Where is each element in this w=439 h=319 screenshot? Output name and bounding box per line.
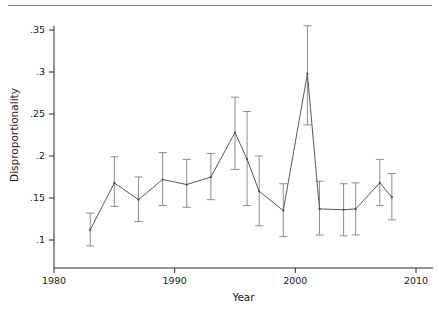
data-point-marker xyxy=(113,182,115,184)
data-point-marker xyxy=(162,178,164,180)
data-point-marker xyxy=(282,210,284,212)
x-tick-label: 1990 xyxy=(163,275,187,286)
data-point-marker xyxy=(89,229,91,231)
data-point-marker xyxy=(258,190,260,192)
data-point-marker xyxy=(234,131,236,133)
data-point-marker xyxy=(318,208,320,210)
y-axis-title: Disproportionality xyxy=(8,88,20,182)
data-point-marker xyxy=(210,176,212,178)
data-point-marker xyxy=(306,73,308,75)
chart-canvas: .1.15.2.25.3.351980199020002010Dispropor… xyxy=(0,0,439,319)
x-axis-title: Year xyxy=(231,291,255,303)
y-tick-label: .1 xyxy=(36,234,45,245)
data-point-marker xyxy=(246,158,248,160)
data-point-marker xyxy=(355,208,357,210)
data-point-marker xyxy=(137,199,139,201)
y-tick-label: .35 xyxy=(30,24,45,35)
chart-figure: .1.15.2.25.3.351980199020002010Dispropor… xyxy=(0,0,439,319)
x-tick-label: 2000 xyxy=(283,275,307,286)
data-point-marker xyxy=(379,182,381,184)
y-tick-label: .2 xyxy=(36,150,45,161)
data-point-marker xyxy=(343,209,345,211)
data-point-marker xyxy=(186,183,188,185)
x-tick-label: 2010 xyxy=(404,275,428,286)
data-point-marker xyxy=(391,196,393,198)
x-tick-label: 1980 xyxy=(42,275,66,286)
y-tick-label: .25 xyxy=(30,108,45,119)
series-line-disproportionality xyxy=(90,74,392,230)
y-tick-label: .15 xyxy=(30,192,45,203)
y-tick-label: .3 xyxy=(36,66,45,77)
